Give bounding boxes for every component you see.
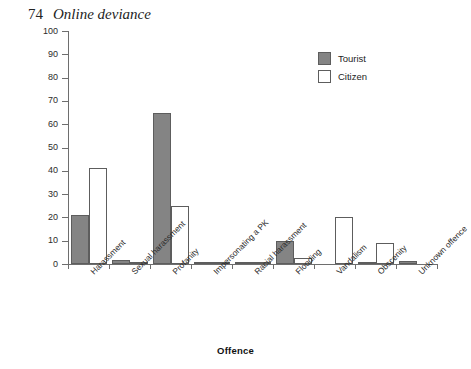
chart-legend: TouristCitizen [318, 49, 367, 85]
x-axis-tick [437, 264, 438, 269]
x-axis-tick [109, 264, 110, 269]
bar-tourist-racial-harassment [235, 262, 253, 264]
y-axis-tick [62, 241, 68, 242]
y-axis-tick-label: 90 [18, 50, 58, 59]
y-axis-tick [62, 31, 68, 32]
x-axis-tick [273, 264, 274, 269]
x-axis-tick [355, 264, 356, 269]
y-axis-tick-label: 10 [18, 236, 58, 245]
legend-swatch-tourist [318, 52, 331, 65]
y-axis-tick [62, 124, 68, 125]
x-axis-title: Offence [0, 345, 471, 356]
y-axis-tick-label: 40 [18, 166, 58, 175]
y-axis-tick [62, 78, 68, 79]
y-axis-tick-label: 60 [18, 120, 58, 129]
x-axis-tick [396, 264, 397, 269]
bar-chart-figure: 0102030405060708090100 Percentage Harass… [0, 0, 471, 369]
y-axis-tick [62, 54, 68, 55]
y-axis-tick-label: 20 [18, 213, 58, 222]
x-axis-tick [150, 264, 151, 269]
y-axis-tick-label: 50 [18, 143, 58, 152]
y-axis-tick [62, 217, 68, 218]
y-axis-tick [62, 148, 68, 149]
bar-tourist-obscenity [358, 262, 376, 264]
legend-item-tourist: Tourist [318, 49, 367, 67]
legend-swatch-citizen [318, 70, 331, 83]
legend-item-citizen: Citizen [318, 67, 367, 85]
bar-tourist-impersonating-a-pk [194, 262, 212, 264]
y-axis-tick [62, 194, 68, 195]
legend-label-citizen: Citizen [338, 71, 367, 82]
x-axis-label-unknown-offence: Unknown offence [417, 224, 469, 276]
x-axis-tick [191, 264, 192, 269]
bar-tourist-sexual-harassment [112, 260, 130, 264]
x-axis-tick [314, 264, 315, 269]
y-axis-tick [62, 171, 68, 172]
y-axis-tick-label: 0 [18, 260, 58, 269]
y-axis-tick-label: 80 [18, 73, 58, 82]
y-axis-tick-label: 100 [18, 27, 58, 36]
legend-label-tourist: Tourist [338, 53, 366, 64]
x-axis-tick [68, 264, 69, 269]
y-axis-tick [62, 101, 68, 102]
bar-citizen-harassment [89, 168, 107, 264]
y-axis-tick-label: 30 [18, 190, 58, 199]
y-axis-line [68, 31, 69, 264]
bar-tourist-unknown-offence [399, 261, 417, 264]
bar-tourist-harassment [71, 215, 89, 264]
x-axis-tick [232, 264, 233, 269]
y-axis-tick-label: 70 [18, 96, 58, 105]
